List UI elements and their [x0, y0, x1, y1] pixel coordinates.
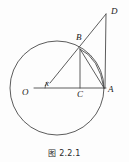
label-point-d: D — [111, 7, 118, 16]
label-point-b: B — [76, 33, 82, 42]
segment-ad — [105, 14, 106, 88]
geometry-drawing — [0, 0, 129, 162]
label-point-a: A — [108, 85, 114, 94]
label-point-o: O — [22, 88, 29, 97]
segment-od — [50, 14, 106, 83]
figure-caption: 图 2.2.1 — [0, 147, 129, 158]
figure-container: O x C A B D 图 2.2.1 — [0, 0, 129, 162]
segment-ba — [80, 49, 104, 88]
label-angle-x: x — [45, 79, 49, 88]
label-point-c: C — [77, 90, 83, 99]
